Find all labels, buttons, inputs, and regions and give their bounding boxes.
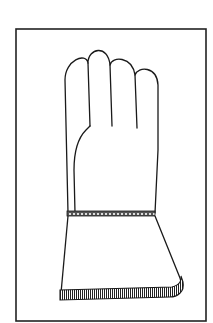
wrist-seam [67, 211, 155, 216]
glove-illustration [0, 0, 213, 323]
cuff-hem [60, 276, 183, 300]
glove-cuff [61, 216, 181, 293]
glove-hand [65, 50, 158, 213]
glove-drawing [0, 0, 213, 323]
picture-frame [16, 29, 206, 321]
